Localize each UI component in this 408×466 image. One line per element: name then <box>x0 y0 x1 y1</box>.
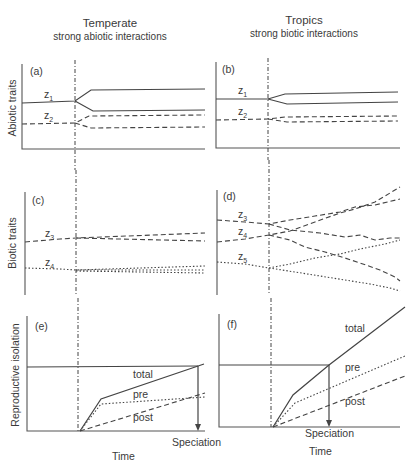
x-axis-label: Time <box>112 450 135 462</box>
trait-label-z3: z3 <box>45 227 54 241</box>
panel-label: (e) <box>35 320 48 332</box>
panel-f: (f) total pre post Speciation Time <box>219 298 405 457</box>
curve-label-pre: pre <box>345 361 360 373</box>
speciation-label: Speciation <box>172 436 221 448</box>
z3-lower <box>269 224 400 240</box>
isolation-threshold <box>27 366 198 367</box>
x-axis-label: Time <box>309 445 332 457</box>
axes <box>27 316 205 431</box>
axes <box>216 62 400 148</box>
trait-label-z2: z2 <box>44 109 53 123</box>
panel-label: (c) <box>32 194 44 206</box>
trait-label-z5: z5 <box>238 250 247 264</box>
speciation-figure: Temperate strong abiotic interactions Tr… <box>0 0 408 466</box>
column-title-tropics: Tropics <box>285 14 323 26</box>
panel-a: (a) z1 z2 <box>22 60 205 170</box>
axes <box>22 64 205 149</box>
z4-lower <box>269 235 400 281</box>
row-label-abiotic: Abiotic traits <box>6 79 18 136</box>
curve-label-post: post <box>133 411 153 423</box>
row-label-biotic: Biotic traits <box>6 217 18 268</box>
trait-label-z3: z3 <box>238 208 247 222</box>
column-title-temperate: Temperate <box>83 17 137 29</box>
z1-lower <box>268 99 398 104</box>
curve-label-post: post <box>345 395 365 407</box>
trait-label-z4: z4 <box>238 225 247 239</box>
trait-label-z1: z1 <box>238 84 247 98</box>
panel-b: (b) z1 z2 <box>216 58 400 160</box>
panel-d: (d) z3 z4 z5 <box>217 160 400 295</box>
z3-lower <box>76 238 205 241</box>
z4-lower <box>76 271 205 273</box>
column-subtitle-temperate: strong abiotic interactions <box>53 31 166 42</box>
speciation-label: Speciation <box>305 427 354 439</box>
trait-label-z4: z4 <box>45 256 54 270</box>
trait-label-z2: z2 <box>238 105 247 119</box>
z1-lower <box>75 101 205 111</box>
trait-label-z1: z1 <box>44 88 53 102</box>
panel-label: (b) <box>222 63 235 75</box>
z5-lower <box>269 268 400 291</box>
panel-e: (e) total pre post Speciation Time <box>27 298 221 462</box>
panel-label: (a) <box>30 65 43 77</box>
total-curve <box>273 307 405 427</box>
pre-curve <box>273 356 405 427</box>
arrow-head-icon <box>195 424 201 431</box>
curve-label-total: total <box>133 368 153 380</box>
curve-label-pre: pre <box>133 388 148 400</box>
panel-c: (c) z3 z4 <box>25 170 205 295</box>
curve-label-total: total <box>345 322 365 334</box>
arrow-head-icon <box>326 420 332 427</box>
column-subtitle-tropics: strong biotic interactions <box>250 28 358 39</box>
z2-lower <box>75 123 205 128</box>
row-label-reproductive: Reproductive isolation <box>9 323 21 426</box>
panel-label: (f) <box>227 318 237 330</box>
z2-lower <box>268 119 398 122</box>
panel-label: (d) <box>223 190 236 202</box>
